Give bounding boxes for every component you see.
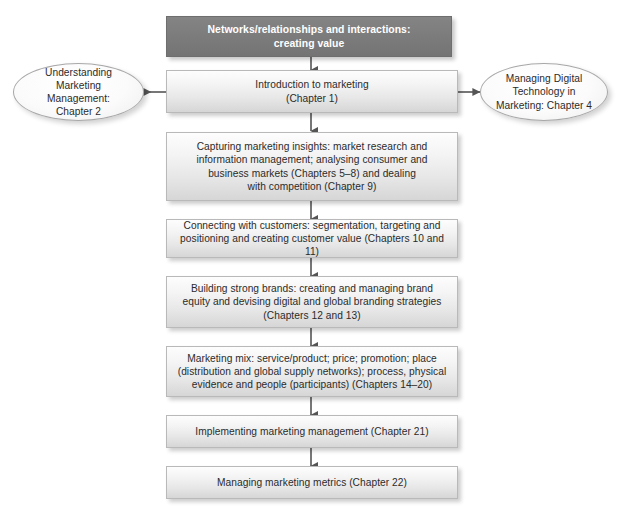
node-building-strong-brands[interactable]: Building strong brands: creating and man…	[166, 276, 458, 328]
node-implementing-marketing-management-label: Implementing marketing management (Chapt…	[175, 425, 449, 438]
node-introduction-to-marketing[interactable]: Introduction to marketing (Chapter 1)	[166, 70, 458, 113]
node-managing-digital-technology[interactable]: Managing Digital Technology in Marketing…	[480, 63, 608, 121]
node-understanding-marketing-management[interactable]: Understanding Marketing Management: Chap…	[13, 63, 144, 121]
node-connecting-with-customers[interactable]: Connecting with customers: segmentation,…	[166, 219, 458, 258]
node-managing-marketing-metrics-label: Managing marketing metrics (Chapter 22)	[175, 476, 449, 489]
node-building-strong-brands-label: Building strong brands: creating and man…	[175, 282, 449, 322]
flowchart-canvas: Networks/relationships and interactions:…	[0, 0, 617, 507]
node-managing-digital-technology-label: Managing Digital Technology in Marketing…	[491, 72, 597, 112]
node-header: Networks/relationships and interactions:…	[166, 16, 452, 57]
node-managing-marketing-metrics[interactable]: Managing marketing metrics (Chapter 22)	[166, 466, 458, 499]
node-header-label: Networks/relationships and interactions:…	[175, 23, 443, 50]
node-connecting-with-customers-label: Connecting with customers: segmentation,…	[175, 219, 449, 259]
node-marketing-mix-label: Marketing mix: service/product; price; p…	[175, 352, 449, 392]
node-capturing-marketing-insights[interactable]: Capturing marketing insights: market res…	[166, 132, 458, 201]
node-marketing-mix[interactable]: Marketing mix: service/product; price; p…	[166, 346, 458, 397]
node-capturing-marketing-insights-label: Capturing marketing insights: market res…	[175, 140, 449, 193]
node-implementing-marketing-management[interactable]: Implementing marketing management (Chapt…	[166, 415, 458, 448]
node-understanding-marketing-management-label: Understanding Marketing Management: Chap…	[24, 66, 133, 119]
node-introduction-to-marketing-label: Introduction to marketing (Chapter 1)	[175, 78, 449, 104]
